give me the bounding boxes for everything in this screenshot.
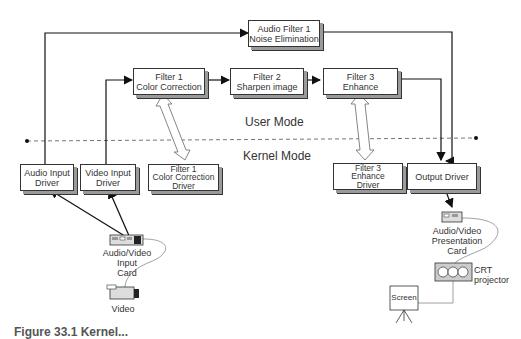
audio-filter-label: Audio Filter 1 Noise Elimination: [249, 24, 319, 44]
filter1-driver-label: Filter 1 Color Correction Driver: [153, 165, 215, 191]
filter1-box: Filter 1 Color Correction: [133, 68, 205, 95]
av-input-card-icon: [110, 235, 143, 245]
audio-input-driver-label: Audio Input Driver: [24, 168, 70, 188]
filter2-label: Filter 2 Sharpen image: [236, 72, 297, 92]
filter3-driver-box: Filter 3 Enhance Driver: [333, 163, 403, 190]
video-input-driver-label: Video Input Driver: [85, 168, 130, 188]
filter3-label: Filter 3 Enhance: [343, 72, 379, 92]
filter2-box: Filter 2 Sharpen image: [230, 68, 304, 95]
filter1-label: Filter 1 Color Correction: [136, 72, 202, 92]
crt-projector-label: CRT projector: [474, 265, 509, 285]
output-driver-label: Output Driver: [415, 172, 469, 182]
projection-screen-icon: [390, 286, 418, 323]
audio-filter-box: Audio Filter 1 Noise Elimination: [248, 20, 320, 47]
output-driver-box: Output Driver: [407, 163, 477, 190]
av-presentation-card-icon: [442, 212, 462, 222]
figure-caption: Figure 33.1 Kernel...: [14, 325, 128, 339]
filter3-driver-label: Filter 3 Enhance Driver: [351, 164, 385, 190]
audio-input-driver-box: Audio Input Driver: [20, 164, 74, 191]
filter1-driver-box: Filter 1 Color Correction Driver: [148, 164, 219, 191]
av-input-card-label: Audio/Video Input Card: [92, 248, 162, 278]
filter3-box: Filter 3 Enhance: [323, 68, 398, 95]
screen-label: Screen: [390, 293, 418, 303]
kernel-mode-label: Kernel Mode: [243, 149, 311, 163]
video-camera-icon: [107, 285, 139, 299]
av-presentation-card-label: Audio/Video Presentation Card: [412, 226, 502, 256]
user-mode-label: User Mode: [245, 115, 304, 129]
crt-projector-icon: [435, 263, 472, 281]
video-label: Video: [108, 304, 138, 314]
video-input-driver-box: Video Input Driver: [80, 164, 136, 191]
